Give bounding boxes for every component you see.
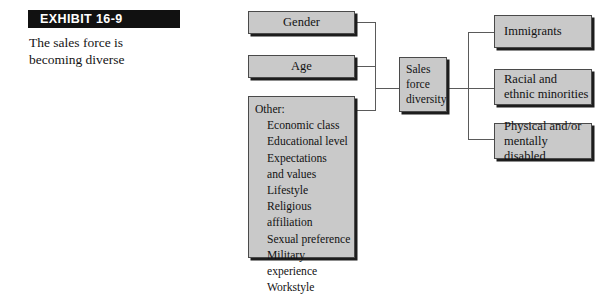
node-age: Age bbox=[248, 55, 355, 78]
node-physical-mentally-disabled-label: Physical and/or mentally disabled bbox=[504, 119, 591, 164]
node-physical-mentally-disabled: Physical and/or mentally disabled bbox=[494, 123, 592, 159]
connector-left-bus-to-core bbox=[375, 88, 400, 89]
list-item: Military experience bbox=[267, 248, 354, 280]
list-item: Expectations and values bbox=[267, 151, 354, 183]
node-racial-ethnic-minorities-label: Racial and ethnic minorities bbox=[504, 72, 588, 102]
node-other-heading: Other: bbox=[255, 102, 354, 118]
exhibit-caption-line-1: The sales force is bbox=[29, 35, 189, 52]
node-racial-ethnic-minorities: Racial and ethnic minorities bbox=[494, 69, 592, 105]
list-item: Economic class bbox=[267, 118, 354, 134]
node-immigrants: Immigrants bbox=[494, 15, 592, 48]
node-immigrants-label: Immigrants bbox=[504, 24, 562, 39]
exhibit-badge-label: EXHIBIT 16-9 bbox=[28, 12, 123, 26]
connector-left-bus bbox=[375, 22, 376, 111]
list-item: Workstyle bbox=[267, 280, 354, 296]
list-item: Sexual preference bbox=[267, 232, 354, 248]
node-sales-force-diversity: Sales force diversity bbox=[399, 57, 447, 112]
connector-gender bbox=[355, 22, 376, 23]
connector-immigrants bbox=[468, 32, 495, 33]
list-item: Religious affiliation bbox=[267, 199, 354, 231]
node-gender-label: Gender bbox=[283, 15, 320, 30]
connector-right-bus bbox=[468, 32, 469, 140]
exhibit-badge: EXHIBIT 16-9 bbox=[28, 10, 180, 28]
node-gender: Gender bbox=[248, 11, 355, 34]
connector-racial-ethnic-minorities bbox=[468, 88, 495, 89]
connector-physical-mentally-disabled bbox=[468, 139, 495, 140]
exhibit-caption-line-2: becoming diverse bbox=[29, 52, 189, 69]
connector-age bbox=[355, 66, 376, 67]
node-other: Other: Economic class Educational level … bbox=[248, 96, 355, 258]
node-sales-force-diversity-label: Sales force diversity bbox=[406, 62, 447, 107]
connector-other bbox=[355, 110, 376, 111]
list-item: Educational level bbox=[267, 134, 354, 150]
node-age-label: Age bbox=[291, 59, 312, 74]
list-item: Lifestyle bbox=[267, 183, 354, 199]
connector-core-to-right-bus bbox=[447, 88, 469, 89]
exhibit-caption: The sales force is becoming diverse bbox=[29, 35, 189, 68]
node-other-list: Economic class Educational level Expecta… bbox=[255, 118, 354, 296]
